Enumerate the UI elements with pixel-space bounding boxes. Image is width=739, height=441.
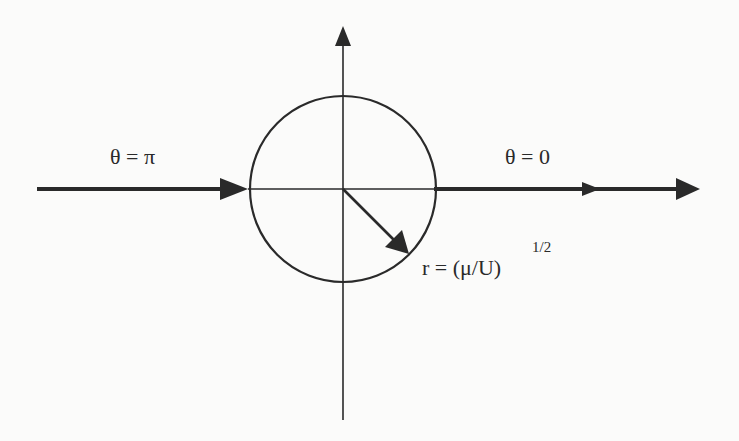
flow-diagram [0, 0, 739, 441]
outgoing-end-arrowhead-icon [676, 178, 700, 200]
theta-zero-label: θ = 0 [505, 146, 550, 168]
outgoing-mid-arrowhead-icon [582, 182, 600, 196]
radius-label: r = (μ/U) [422, 257, 501, 279]
radius-arrow-shaft [343, 189, 396, 242]
theta-pi-label: θ = π [110, 146, 155, 168]
incoming-arrowhead-icon [220, 178, 248, 200]
vertical-axis-arrowhead-icon [335, 26, 351, 46]
radius-exponent-label: 1/2 [532, 240, 551, 255]
